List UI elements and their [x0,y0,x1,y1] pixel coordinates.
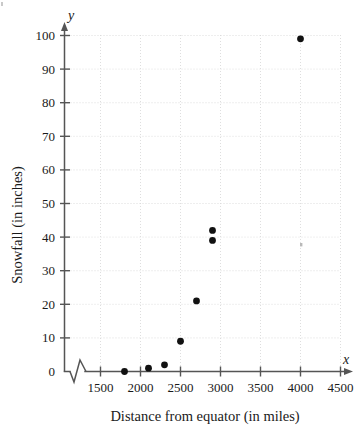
y-tick-label: 20 [42,297,55,312]
x-tick-label: 3500 [248,380,274,395]
x-tick-label: 1500 [88,380,114,395]
scatter-plot-figure: 1500200025003000350040004500 01020304050… [0,0,361,443]
data-point [209,227,216,234]
data-point [177,338,184,345]
x-tick-label: 3000 [208,380,234,395]
x-tick-label: 4500 [328,380,354,395]
x-axis-symbol-label: x [342,352,350,367]
y-tick-label: 30 [42,263,55,278]
data-point [145,365,152,372]
y-tick-label: 40 [42,230,55,245]
y-tick-label: 100 [36,28,56,43]
print-artifact-smudge [300,243,302,246]
x-tick-label: 4000 [288,380,314,395]
x-tick-label: 2500 [168,380,194,395]
chart-canvas: 1500200025003000350040004500 01020304050… [0,0,361,443]
y-tick-label: 90 [42,62,55,77]
y-tick-label: 80 [42,95,55,110]
data-point [209,237,216,244]
x-tick-label: 2000 [128,380,154,395]
y-axis-title: Snowfall (in inches) [9,166,26,284]
data-point [161,361,168,368]
y-tick-label: 60 [42,162,55,177]
data-point [297,35,304,42]
y-tick-label: 10 [42,330,55,345]
x-axis-title: Distance from equator (in miles) [110,408,299,425]
data-point [193,298,200,305]
y-tick-label: 0 [49,364,56,379]
y-axis-symbol-label: y [66,8,75,23]
print-artifact-corner [1,2,3,6]
y-tick-label: 50 [42,196,55,211]
y-tick-label: 70 [42,129,55,144]
data-point [121,368,128,375]
